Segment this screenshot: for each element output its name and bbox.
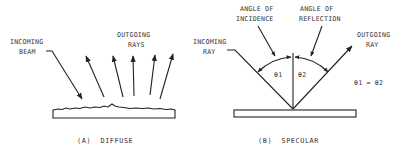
incidence-angle-arc [258, 57, 291, 72]
specular-outgoing-label-2: RAY [366, 41, 379, 49]
specular-outgoing-label: OUTGOING [357, 31, 390, 39]
diffuse-ray-arrow [150, 55, 155, 95]
diffuse-ray-arrow [113, 56, 123, 97]
diffuse-incoming-label-2: BEAM [19, 48, 36, 56]
diffuse-caption: (A) DIFFUSE [77, 137, 133, 145]
theta1-label: θ1 [274, 71, 282, 79]
theta2-label: θ2 [298, 71, 306, 79]
reflection-pointer-arrow [311, 26, 322, 56]
theta-equation: θ1 = θ2 [354, 79, 383, 87]
diffuse-incoming-label: INCOMING [10, 38, 43, 46]
reflection-angle-arc [295, 57, 328, 72]
diffuse-outgoing-label-2: RAYS [128, 41, 145, 49]
specular-incoming-label-2: RAY [203, 48, 216, 56]
diffuse-ray-arrow [160, 54, 173, 99]
incidence-pointer-arrow [258, 26, 275, 56]
specular-panel: INCOMING RAY ANGLE OF INCIDENCE ANGLE OF… [193, 5, 390, 145]
diffuse-ray-arrow [133, 56, 134, 96]
diffuse-incoming-beam-arrow [46, 51, 82, 99]
diffuse-panel: INCOMING BEAM OUTGOING RAYS (A) DIFFUSE [10, 31, 175, 145]
reflection-diagram: INCOMING BEAM OUTGOING RAYS (A) DIFFUSE … [0, 0, 408, 154]
specular-smooth-surface [234, 110, 356, 117]
incidence-label-2: INCIDENCE [236, 15, 274, 23]
reflection-label-2: REFLECTION [299, 15, 341, 23]
specular-incoming-ray [227, 50, 293, 109]
reflection-label: ANGLE OF [300, 5, 333, 13]
diffuse-ray-arrow [86, 56, 104, 97]
diffuse-rough-surface [53, 104, 175, 118]
diffuse-outgoing-label: OUTGOING [117, 31, 150, 39]
specular-incoming-label: INCOMING [193, 38, 226, 46]
specular-caption: (B) SPECULAR [258, 137, 319, 145]
incidence-label: ANGLE OF [240, 5, 273, 13]
